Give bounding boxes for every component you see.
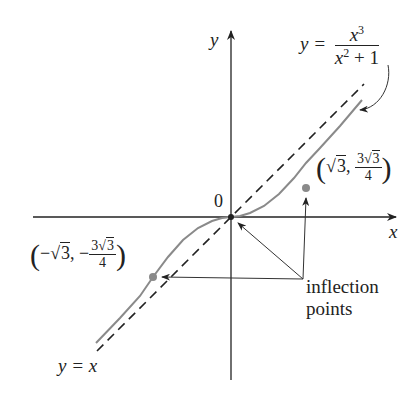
point-label-right: (√3, 3√34) <box>316 152 392 183</box>
pointer-origin <box>238 223 303 279</box>
inflection-dot-left <box>149 273 157 281</box>
inflection-annotation: inflection points <box>306 276 379 320</box>
pointer-left <box>162 277 303 279</box>
x-axis-label: x <box>389 222 397 241</box>
label-arrow <box>360 65 389 110</box>
inflection-dot-right <box>302 184 310 192</box>
origin-dot <box>228 214 234 220</box>
asymptote-label: y = x <box>58 356 97 375</box>
origin-label: 0 <box>214 192 223 210</box>
pointer-right <box>303 198 306 279</box>
curve-equation: y = x3 x2 + 1 <box>300 24 379 68</box>
eq-lhs: y = <box>300 33 326 54</box>
y-axis-label: y <box>210 30 218 49</box>
point-label-left: (−√3, −3√34) <box>30 239 126 270</box>
